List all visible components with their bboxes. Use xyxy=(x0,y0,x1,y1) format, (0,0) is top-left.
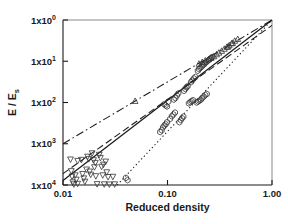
marker-triangle-down xyxy=(110,174,116,180)
marker-triangle-down xyxy=(75,158,81,164)
marker-triangle-down xyxy=(94,182,100,188)
y-tick-label: 1x103 xyxy=(31,137,56,149)
y-tick-label: 1x104 xyxy=(31,179,56,191)
x-tick-label: 1.00 xyxy=(263,188,282,199)
x-tick-label: 0.01 xyxy=(54,188,73,199)
marker-triangle-down xyxy=(68,157,74,163)
x-axis-title: Reduced density xyxy=(125,201,209,213)
marker-triangle-down xyxy=(100,173,106,179)
x-tick-label: 0.10 xyxy=(158,188,177,199)
y-tick-label: 1x102 xyxy=(31,96,56,108)
figure-root: 1x1001x1011x1021x1031x1040.010.101.00Red… xyxy=(0,0,288,224)
y-axis-title: E / Es xyxy=(6,89,21,116)
y-tick-label: 1x100 xyxy=(31,14,56,26)
marker-triangle-down xyxy=(81,176,87,182)
y-tick-label: 1x101 xyxy=(31,55,56,67)
marker-hexagon xyxy=(204,91,209,97)
scatter-plot-svg: 1x1001x1011x1021x1031x1040.010.101.00Red… xyxy=(0,0,288,224)
marker-triangle-down xyxy=(93,174,99,180)
fit-line-solid-fit xyxy=(63,20,272,181)
